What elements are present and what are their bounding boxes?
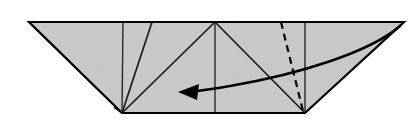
origami-diagram-svg (0, 0, 419, 133)
origami-diagram-root (0, 0, 419, 133)
vertical-crease-left-line (122, 22, 123, 113)
